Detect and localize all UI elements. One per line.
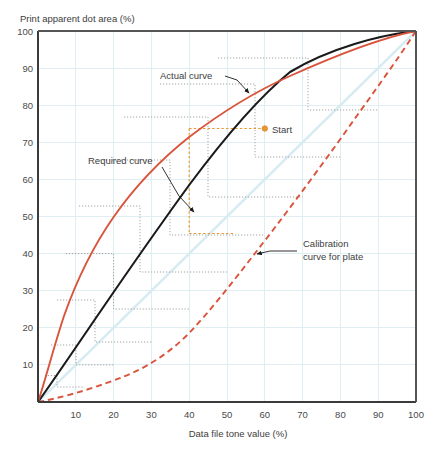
y-tick-label: 20: [22, 322, 33, 333]
x-tick-label: 40: [184, 409, 195, 420]
y-tick-label: 60: [22, 174, 33, 185]
y-tick-label: 70: [22, 137, 33, 148]
x-tick-label: 100: [408, 409, 424, 420]
actual-curve-label: Actual curve: [160, 70, 212, 81]
x-tick-label: 60: [260, 409, 271, 420]
x-tick-label: 30: [146, 409, 157, 420]
y-tick-label: 90: [22, 63, 33, 74]
x-tick-label: 90: [373, 409, 384, 420]
required-curve-label: Required curve: [88, 155, 152, 166]
x-tick-label: 20: [108, 409, 119, 420]
y-tick-labels: 100 90 80 70 60 50 40 30 20 10: [17, 26, 33, 371]
x-tick-labels: 10 20 30 40 50 60 70 80 90 100: [71, 409, 424, 420]
start-marker[interactable]: [262, 126, 267, 131]
y-tick-label: 50: [22, 211, 33, 222]
start-label: Start: [272, 124, 292, 135]
y-tick-label: 10: [22, 359, 33, 370]
x-axis-title: Data file tone value (%): [189, 428, 288, 439]
tone-transfer-chart: Print apparent dot area (%) Data file to…: [0, 0, 437, 454]
chart-figure: Print apparent dot area (%) Data file to…: [0, 0, 437, 454]
y-tick-label: 30: [22, 285, 33, 296]
calibration-curve-label-line2: curve for plate: [303, 251, 363, 262]
y-tick-label: 100: [17, 26, 33, 37]
x-tick-label: 70: [297, 409, 308, 420]
x-tick-label: 50: [222, 409, 233, 420]
x-tick-label: 80: [335, 409, 346, 420]
y-axis-title: Print apparent dot area (%): [20, 13, 135, 24]
y-tick-label: 80: [22, 100, 33, 111]
calibration-curve-label-line1: Calibration: [303, 238, 348, 249]
x-tick-label: 10: [71, 409, 82, 420]
y-tick-label: 40: [22, 248, 33, 259]
